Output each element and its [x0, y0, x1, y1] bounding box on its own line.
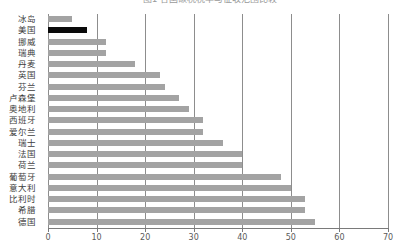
category-label: 瑞典 [0, 48, 36, 59]
bar-row: 英国 [48, 70, 388, 81]
category-label: 荷兰 [0, 160, 36, 171]
category-label: 冰岛 [0, 14, 36, 25]
category-label: 英国 [0, 70, 36, 81]
bar [48, 72, 160, 78]
category-label: 芬兰 [0, 82, 36, 93]
bar [48, 39, 106, 45]
category-label: 法国 [0, 149, 36, 160]
bar [48, 61, 135, 67]
bar [48, 106, 189, 112]
x-tick-60 [339, 228, 340, 232]
category-label: 美国 [0, 25, 36, 36]
x-tick-label-60: 60 [327, 233, 351, 242]
category-label: 瑞士 [0, 138, 36, 149]
category-label: 德国 [0, 217, 36, 228]
x-tick-10 [97, 228, 98, 232]
bar [48, 219, 315, 225]
bar [48, 117, 203, 123]
bar-row: 瑞士 [48, 138, 388, 149]
bar-row: 冰岛 [48, 14, 388, 25]
bar [48, 140, 223, 146]
category-label: 葡萄牙 [0, 172, 36, 183]
bar [48, 207, 305, 213]
x-tick-20 [145, 228, 146, 232]
category-label: 丹麦 [0, 59, 36, 70]
x-tick-40 [242, 228, 243, 232]
bar [48, 162, 242, 168]
bar-row: 爱尔兰 [48, 127, 388, 138]
chart-title: 图1 各国碳税税率与征收范围比较 [95, 0, 325, 4]
bar [48, 95, 179, 101]
x-tick-label-0: 0 [36, 233, 60, 242]
x-tick-30 [194, 228, 195, 232]
bar-row: 挪威 [48, 37, 388, 48]
category-label: 挪威 [0, 37, 36, 48]
bar-row: 比利时 [48, 194, 388, 205]
bar-row: 葡萄牙 [48, 172, 388, 183]
bar [48, 174, 281, 180]
bar-row: 瑞典 [48, 48, 388, 59]
category-label: 爱尔兰 [0, 127, 36, 138]
bar-row: 芬兰 [48, 82, 388, 93]
bar [48, 129, 203, 135]
bar [48, 185, 291, 191]
x-tick-0 [48, 228, 49, 232]
bar-row: 卢森堡 [48, 93, 388, 104]
bar [48, 151, 242, 157]
category-label: 奥地利 [0, 104, 36, 115]
bar [48, 84, 165, 90]
category-label: 西班牙 [0, 115, 36, 126]
category-label: 卢森堡 [0, 93, 36, 104]
gridline-70 [388, 14, 389, 228]
x-tick-70 [388, 228, 389, 232]
bar-row: 法国 [48, 149, 388, 160]
bar-chart: 图1 各国碳税税率与征收范围比较 010203040506070冰岛美国挪威瑞典… [0, 0, 399, 252]
bar-row: 美国 [48, 25, 388, 36]
bar [48, 27, 87, 33]
bar-row: 德国 [48, 217, 388, 228]
x-tick-label-50: 50 [279, 233, 303, 242]
bar [48, 50, 106, 56]
x-tick-label-40: 40 [230, 233, 254, 242]
bar-row: 意大利 [48, 183, 388, 194]
category-label: 比利时 [0, 194, 36, 205]
x-axis-line [48, 228, 389, 229]
x-tick-50 [291, 228, 292, 232]
category-label: 意大利 [0, 183, 36, 194]
x-tick-label-70: 70 [376, 233, 399, 242]
x-tick-label-20: 20 [133, 233, 157, 242]
category-label: 希腊 [0, 205, 36, 216]
bar [48, 16, 72, 22]
bar-row: 荷兰 [48, 160, 388, 171]
bar-row: 奥地利 [48, 104, 388, 115]
bar-row: 丹麦 [48, 59, 388, 70]
bar-row: 西班牙 [48, 115, 388, 126]
bar [48, 196, 305, 202]
x-tick-label-30: 30 [182, 233, 206, 242]
bar-row: 希腊 [48, 205, 388, 216]
x-tick-label-10: 10 [85, 233, 109, 242]
